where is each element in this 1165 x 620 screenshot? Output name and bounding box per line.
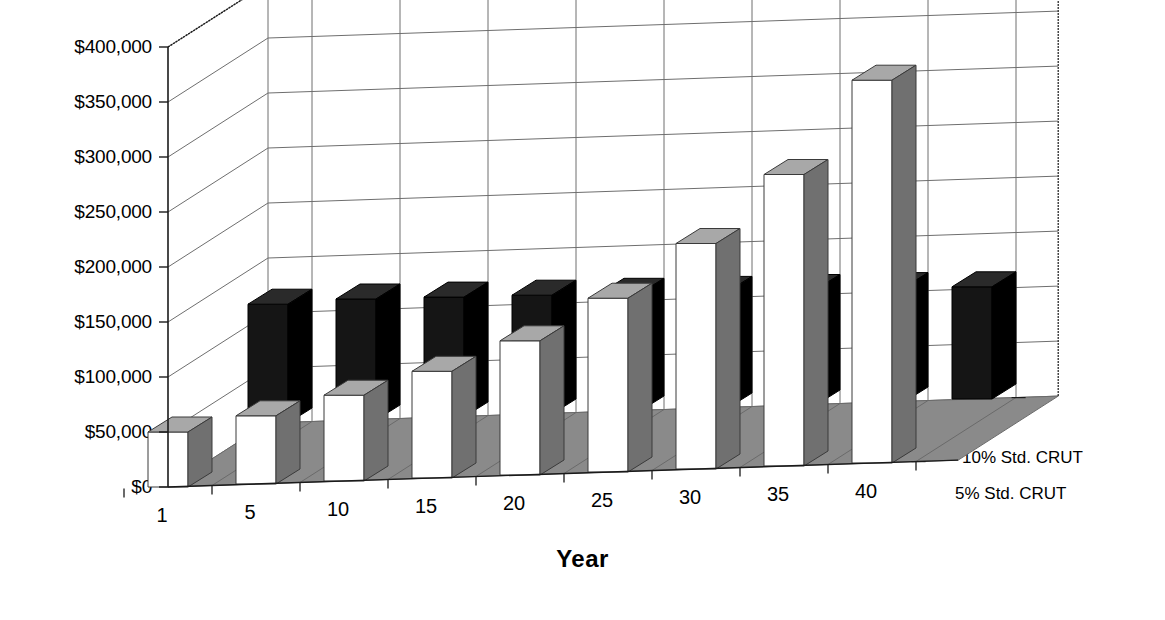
chart-canvas: $400,000$350,000$300,000$250,000$200,000… bbox=[0, 0, 1165, 620]
3d-bar-plot bbox=[0, 0, 1165, 620]
